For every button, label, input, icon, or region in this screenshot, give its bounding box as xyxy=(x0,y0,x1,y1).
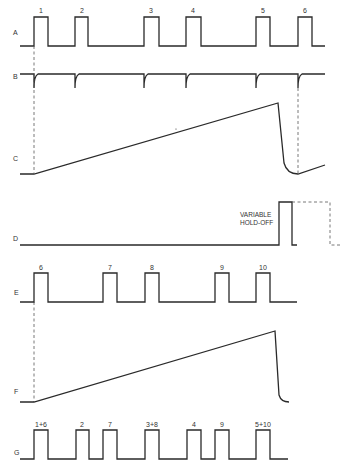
trace-b: B xyxy=(13,73,325,88)
trace-label-b: B xyxy=(13,73,18,80)
trace-e: E 6 7 8 9 10 xyxy=(14,264,297,302)
pulse-label-a-6: 6 xyxy=(303,7,307,14)
pulse-label-e-10: 10 xyxy=(259,264,267,271)
pulse-label-g-7: 5+10 xyxy=(255,421,271,428)
pulse-label-e-7: 7 xyxy=(108,264,112,271)
trace-label-e: E xyxy=(14,289,19,296)
hold-off-annotation-line2: HOLD-OFF xyxy=(240,219,273,226)
pulse-label-g-2: 2 xyxy=(80,421,84,428)
pulse-label-g-5: 4 xyxy=(192,421,196,428)
trace-label-f: F xyxy=(14,388,18,395)
pulse-label-a-2: 2 xyxy=(80,7,84,14)
pulse-label-a-3: 3 xyxy=(149,7,153,14)
trace-label-c: C xyxy=(13,155,18,162)
hold-off-annotation-line1: VARIABLE xyxy=(240,211,272,218)
pulse-label-g-4: 3+8 xyxy=(146,421,158,428)
trace-a: A 1 2 3 4 5 6 xyxy=(13,7,325,46)
pulse-label-e-9: 9 xyxy=(220,264,224,271)
pulse-label-e-6: 6 xyxy=(39,264,43,271)
trace-f: F xyxy=(14,331,289,402)
trace-label-g: G xyxy=(14,449,19,456)
trace-g: G 1+6 2 7 3+8 4 9 5+10 xyxy=(14,421,288,459)
pulse-label-a-5: 5 xyxy=(261,7,265,14)
trace-c: C xyxy=(13,103,325,174)
pulse-label-g-3: 7 xyxy=(108,421,112,428)
pulse-label-g-6: 9 xyxy=(220,421,224,428)
pulse-label-e-8: 8 xyxy=(150,264,154,271)
trace-d: D VARIABLE HOLD-OFF xyxy=(13,202,340,245)
pulse-label-a-1: 1 xyxy=(39,7,43,14)
timing-diagram: A 1 2 3 4 5 6 B C D VARIABLE HOLD-OFF E … xyxy=(0,0,350,472)
trace-label-a: A xyxy=(13,29,18,36)
trace-label-d: D xyxy=(13,235,18,242)
pulse-label-a-4: 4 xyxy=(191,7,195,14)
pulse-label-g-1: 1+6 xyxy=(35,421,47,428)
